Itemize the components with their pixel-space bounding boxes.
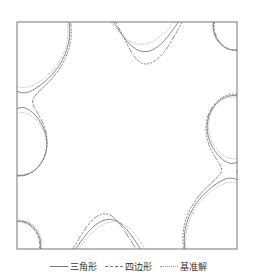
dotted-line-icon [160, 266, 178, 267]
contour-series [17, 22, 237, 249]
legend-label: 基准解 [180, 260, 207, 273]
legend-label: 三角形 [70, 260, 97, 273]
legend-label: 四边形 [125, 260, 152, 273]
legend-item-triangle: 三角形 [50, 260, 97, 273]
solid-line-icon [50, 266, 68, 267]
legend-item-reference: 基准解 [160, 260, 207, 273]
dashed-line-icon [105, 266, 123, 267]
contour-series [17, 22, 237, 249]
contour-series [17, 22, 237, 249]
legend-item-quadrilateral: 四边形 [105, 260, 152, 273]
plot-frame [17, 22, 237, 249]
contour-plot [0, 0, 256, 278]
contour-lines [17, 22, 237, 249]
legend: 三角形 四边形 基准解 [0, 258, 256, 274]
